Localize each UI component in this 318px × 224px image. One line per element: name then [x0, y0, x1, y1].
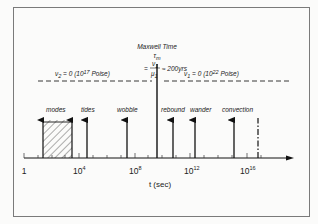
- label-wobble: wobble: [117, 106, 138, 113]
- label-rebound: rebound: [161, 106, 185, 113]
- tick-label-1e12: 1012: [184, 165, 200, 176]
- tick-label-1e4: 104: [73, 165, 86, 176]
- regime-left-label: ν2 = 0 (1017 Poise): [55, 69, 110, 79]
- label-tides: tides: [81, 106, 95, 113]
- label-modes: modes: [46, 106, 66, 113]
- timescale-diagram: Maxwell Time τm = ν1 μ1 ≈ 200yrs ν2 = 0 …: [0, 0, 318, 224]
- label-convection: convection: [222, 106, 253, 113]
- axis-arrow-icon: [286, 156, 294, 161]
- regime-right-label: ν1 = 0 (1022 Poise): [184, 69, 239, 79]
- svg-text:=: =: [144, 65, 148, 72]
- label-wander: wander: [190, 106, 212, 113]
- maxwell-formula: = ν1 μ1 ≈ 200yrs: [144, 60, 188, 79]
- modes-range-box: [43, 120, 72, 158]
- tick-label-1: 1: [22, 166, 27, 176]
- maxwell-title: Maxwell Time: [137, 43, 177, 50]
- tick-label-1e16: 1016: [240, 165, 256, 176]
- tick-label-1e8: 108: [129, 165, 142, 176]
- axis-title: t (sec): [149, 180, 172, 189]
